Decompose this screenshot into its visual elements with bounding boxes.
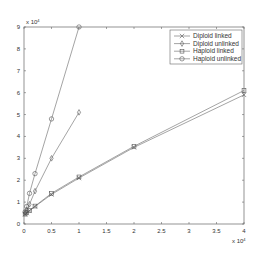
y-tick-label: 6 bbox=[17, 90, 21, 96]
y-tick-label: 5 bbox=[17, 112, 21, 118]
y-tick-label: 4 bbox=[17, 133, 21, 139]
series-haploid-linked bbox=[23, 89, 246, 216]
series-haploid-unlinked bbox=[23, 25, 81, 214]
x-tick-label: 0.5 bbox=[47, 228, 56, 234]
y-tick-label: 3 bbox=[17, 155, 21, 161]
x-tick-label: 2.5 bbox=[157, 228, 166, 234]
x-tick-label: 3.5 bbox=[212, 228, 221, 234]
x-tick-label: 2 bbox=[132, 228, 136, 234]
y-tick-label: 8 bbox=[17, 46, 21, 52]
series-line bbox=[25, 112, 79, 213]
x-tick-label: 3 bbox=[187, 228, 191, 234]
legend-label: Haploid unlinked bbox=[193, 55, 241, 63]
legend: Diploid linkedDiploid unlinkedHaploid li… bbox=[170, 30, 242, 64]
x-tick-label: 1 bbox=[77, 228, 81, 234]
y-tick-label: 7 bbox=[17, 68, 21, 74]
y-tick-label: 9 bbox=[17, 24, 21, 30]
y-tick-label: 1 bbox=[17, 199, 21, 205]
x-tick-label: 4 bbox=[242, 228, 246, 234]
series-line bbox=[25, 95, 244, 214]
y-multiplier: x 104 bbox=[26, 18, 40, 25]
y-tick-label: 2 bbox=[17, 177, 21, 183]
y-tick-label: 0 bbox=[17, 221, 21, 227]
x-tick-label: 0 bbox=[22, 228, 26, 234]
series-line bbox=[25, 90, 244, 214]
x-tick-label: 1.5 bbox=[102, 228, 111, 234]
x-multiplier: x 104 bbox=[232, 237, 246, 244]
series-line bbox=[25, 27, 79, 212]
series-diploid-linked bbox=[23, 93, 246, 217]
line-chart: 00.511.522.533.540123456789x 104x 104Dip… bbox=[0, 0, 260, 256]
series-diploid-unlinked bbox=[24, 110, 81, 216]
